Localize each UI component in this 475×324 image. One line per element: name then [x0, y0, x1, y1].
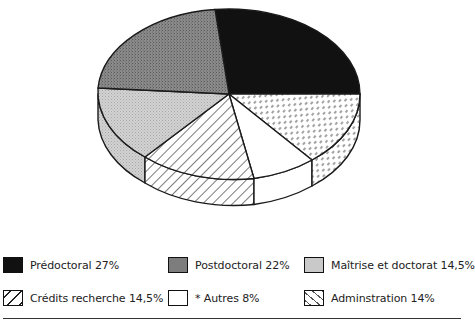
legend-label: * Autres 8% [195, 292, 259, 305]
swatch-black-icon [3, 257, 23, 273]
swatch-light-gray-icon [304, 257, 324, 273]
slice-predoctoral [215, 9, 360, 94]
swatch-dash-icon [304, 290, 324, 306]
slice-postdoctoral [98, 10, 229, 95]
legend-label: Maîtrise et doctorat 14,5% [331, 259, 475, 272]
legend-item-adminstration: Adminstration 14% [304, 289, 435, 307]
bottom-rule [3, 318, 461, 319]
legend-label: Prédoctoral 27% [30, 259, 119, 272]
legend-label: Postdoctoral 22% [195, 259, 289, 272]
legend-label: Adminstration 14% [331, 292, 435, 305]
pie-chart [0, 0, 468, 240]
legend-item-postdoctoral: Postdoctoral 22% [168, 256, 289, 274]
swatch-white-icon [168, 290, 188, 306]
swatch-hatch-icon [3, 290, 23, 306]
legend-item-maitrise: Maîtrise et doctorat 14,5% [304, 256, 475, 274]
legend-label: Crédits recherche 14,5% [30, 292, 163, 305]
legend-item-autres: * Autres 8% [168, 289, 259, 307]
swatch-dark-gray-icon [168, 257, 188, 273]
legend-item-predoctoral: Prédoctoral 27% [3, 256, 119, 274]
legend-item-credits: Crédits recherche 14,5% [3, 289, 163, 307]
